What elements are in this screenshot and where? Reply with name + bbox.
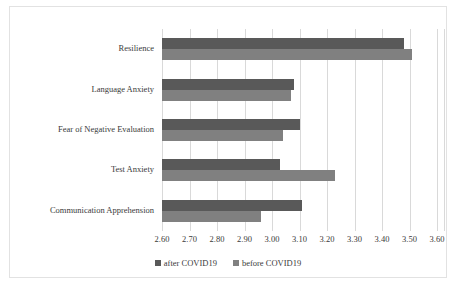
bar-after-covid19[interactable] (162, 159, 280, 170)
bar-after-covid19[interactable] (162, 79, 294, 90)
bar-before-covid19[interactable] (162, 90, 291, 101)
plot-right-border (444, 29, 445, 231)
x-tick-3.40: 3.40 (375, 235, 390, 244)
legend-swatch-icon (233, 260, 239, 266)
bar-before-covid19[interactable] (162, 49, 412, 60)
x-axis-tick-labels: 2.602.702.802.903.003.103.203.303.403.50… (162, 235, 437, 249)
legend-item-before-covid19[interactable]: before COVID19 (233, 259, 301, 268)
category-label-test-anxiety: Test Anxiety (111, 165, 154, 174)
x-tick-3.60: 3.60 (430, 235, 445, 244)
legend-label: before COVID19 (242, 259, 301, 268)
chart-frame: ResilienceLanguage AnxietyFear of Negati… (9, 6, 447, 278)
bar-group (162, 119, 437, 141)
x-tick-3.10: 3.10 (292, 235, 307, 244)
x-tick-2.90: 2.90 (237, 235, 252, 244)
bar-group (162, 159, 437, 181)
legend-swatch-icon (155, 260, 161, 266)
bar-after-covid19[interactable] (162, 38, 404, 49)
x-tick-3.00: 3.00 (265, 235, 280, 244)
bar-before-covid19[interactable] (162, 211, 261, 222)
category-axis-labels: ResilienceLanguage AnxietyFear of Negati… (10, 29, 158, 231)
x-tick-3.20: 3.20 (320, 235, 335, 244)
x-tick-2.70: 2.70 (182, 235, 197, 244)
plot-area (162, 29, 437, 231)
chart-legend: after COVID19before COVID19 (10, 259, 446, 268)
chart-figure: ResilienceLanguage AnxietyFear of Negati… (0, 0, 460, 292)
bar-after-covid19[interactable] (162, 119, 300, 130)
x-tick-2.80: 2.80 (210, 235, 225, 244)
bar-group (162, 79, 437, 101)
legend-label: after COVID19 (164, 259, 217, 268)
bar-before-covid19[interactable] (162, 130, 283, 141)
x-tick-3.30: 3.30 (347, 235, 362, 244)
x-tick-3.50: 3.50 (402, 235, 417, 244)
legend-item-after-covid19[interactable]: after COVID19 (155, 259, 217, 268)
x-tick-2.60: 2.60 (155, 235, 170, 244)
gridline-3.60 (437, 29, 438, 231)
bar-group (162, 38, 437, 60)
bar-group (162, 200, 437, 222)
category-label-fear-of-negative-evaluation: Fear of Negative Evaluation (58, 125, 154, 134)
bar-after-covid19[interactable] (162, 200, 302, 211)
category-label-communication-apprehension: Communication Apprehension (50, 206, 154, 215)
category-label-language-anxiety: Language Anxiety (91, 85, 154, 94)
bar-before-covid19[interactable] (162, 170, 335, 181)
category-label-resilience: Resilience (119, 44, 154, 53)
